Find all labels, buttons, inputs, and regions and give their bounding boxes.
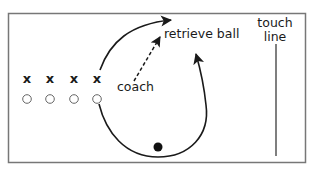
defender-marker bbox=[93, 95, 102, 104]
defender-marker bbox=[46, 95, 55, 104]
coach-label: coach bbox=[117, 79, 154, 94]
player-run-arrow bbox=[100, 20, 171, 70]
field-boundary bbox=[9, 14, 306, 163]
attacker-marker: x bbox=[70, 71, 79, 86]
touch-line-label-2: line bbox=[264, 29, 287, 44]
drill-diagram: touch line x x x x coach retrieve ball bbox=[0, 0, 313, 174]
defender-marker bbox=[70, 95, 79, 104]
retrieve-ball-label: retrieve ball bbox=[164, 26, 239, 41]
coach-pass-arrow bbox=[134, 37, 160, 81]
touch-line-label-1: touch bbox=[257, 15, 292, 30]
attacker-marker: x bbox=[46, 71, 55, 86]
defender-marker bbox=[23, 95, 32, 104]
retrieve-loop-arrow bbox=[99, 54, 207, 157]
ball bbox=[154, 143, 163, 152]
attacker-marker: x bbox=[93, 71, 102, 86]
attacker-marker: x bbox=[23, 71, 32, 86]
